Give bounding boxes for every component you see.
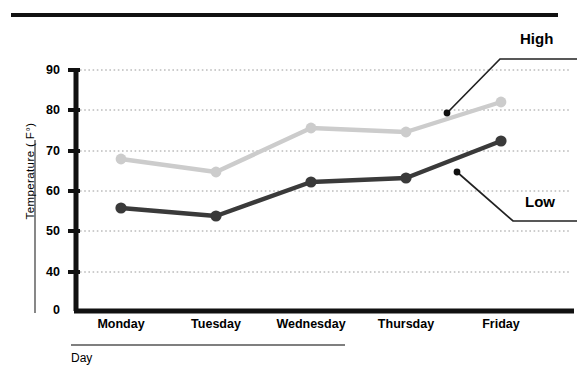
- x-tick-label-friday: Friday: [446, 317, 556, 331]
- series-high: [116, 97, 507, 178]
- y-tick-label-90: 90: [20, 64, 60, 76]
- series-low-point-friday: [495, 135, 506, 146]
- series-high-point-tuesday: [211, 167, 222, 178]
- x-tick-label-monday: Monday: [66, 317, 176, 331]
- x-tick-label-wednesday: Wednesday: [256, 317, 366, 331]
- callout-low-anchor-dot: [454, 169, 461, 176]
- x-tick-label-thursday: Thursday: [351, 317, 461, 331]
- callout-high-anchor-dot: [444, 110, 451, 117]
- y-axis-title-text: Temperature ( F°): [24, 122, 36, 219]
- y-tick-label-60: 60: [20, 185, 60, 197]
- y-tick-label-80: 80: [20, 104, 60, 116]
- y-tick-label-50: 50: [20, 225, 60, 237]
- callout-high-leader: [444, 59, 577, 116]
- x-axis-title: Day: [71, 352, 92, 365]
- series-high-point-monday: [116, 154, 127, 165]
- temperature-line-chart: Temperature ( F°) 90 80 70 60 50 40 0 Mo…: [0, 0, 577, 381]
- y-tick-label-0: 0: [20, 304, 60, 316]
- y-tick-label-70: 70: [20, 145, 60, 157]
- callout-label-low: Low: [525, 194, 555, 210]
- x-tick-label-tuesday: Tuesday: [161, 317, 271, 331]
- callout-label-high: High: [520, 31, 553, 47]
- callout-low-leader: [454, 169, 577, 221]
- series-low: [115, 135, 506, 221]
- series-high-point-wednesday: [306, 123, 317, 134]
- series-low-point-tuesday: [210, 210, 221, 221]
- series-high-point-friday: [496, 97, 507, 108]
- series-low-point-monday: [115, 202, 126, 213]
- series-high-point-thursday: [401, 127, 412, 138]
- y-tick-label-40: 40: [20, 266, 60, 278]
- series-low-point-thursday: [400, 172, 411, 183]
- series-low-point-wednesday: [305, 176, 316, 187]
